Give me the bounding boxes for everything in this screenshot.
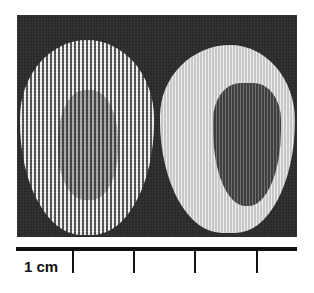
right-coated-mesh-specimen: [160, 45, 295, 233]
left-mesh-specimen: [20, 40, 154, 235]
left-mesh-core: [58, 90, 118, 200]
scale-label: 1 cm: [24, 258, 58, 275]
scale-tick: [72, 251, 74, 273]
right-mesh-dark-core: [213, 83, 281, 206]
scale-tick: [256, 251, 258, 273]
scale-tick: [194, 251, 196, 273]
specimen-photo: [17, 15, 297, 237]
scale-bar-line: [16, 247, 297, 251]
scale-tick: [133, 251, 135, 273]
